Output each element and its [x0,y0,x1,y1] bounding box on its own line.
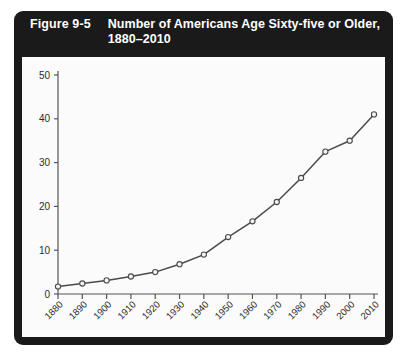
x-tick-label: 1930 [164,299,187,322]
y-tick-label: 40 [39,113,51,124]
data-point [347,138,352,143]
x-tick-label: 1960 [237,299,260,322]
y-tick-label: 10 [39,245,51,256]
figure-number-label: Figure 9-5 [30,17,91,31]
data-point [177,262,182,267]
figure-frame: Figure 9-5 Number of Americans Age Sixty… [14,11,393,345]
data-markers [55,112,376,289]
data-series [58,114,374,286]
page-title: Number of Americans Age Sixty-five or Ol… [108,17,383,46]
x-tick-label: 1920 [139,299,162,322]
figure-title-bar: Figure 9-5 Number of Americans Age Sixty… [14,11,393,57]
data-point [250,219,255,224]
x-tick-label: 1880 [42,299,65,322]
data-point [274,199,279,204]
data-point [226,234,231,239]
data-point [298,175,303,180]
data-point [371,112,376,117]
x-axis: 1880189019001910192019301940195019601970… [42,294,381,321]
plot-area: 01020304050 1880189019001910192019301940… [22,57,385,337]
x-tick-label: 1890 [66,299,89,322]
data-point [55,284,60,289]
data-point [128,274,133,279]
y-tick-label: 50 [39,70,51,81]
y-axis: 01020304050 [39,70,58,300]
x-tick-label: 1900 [91,299,114,322]
title-row: Figure 9-5 Number of Americans Age Sixty… [30,17,383,46]
data-point [201,252,206,257]
x-tick-label: 1950 [212,299,235,322]
x-tick-label: 2000 [334,299,357,322]
data-point [153,270,158,275]
y-tick-label: 0 [44,289,50,300]
x-tick-label: 1980 [285,299,308,322]
x-tick-label: 1990 [310,299,333,322]
x-tick-label: 1970 [261,299,284,322]
data-point [80,281,85,286]
x-tick-label: 2010 [358,299,381,322]
x-tick-label: 1940 [188,299,211,322]
figure-container: Figure 9-5 Number of Americans Age Sixty… [0,0,407,356]
y-tick-label: 30 [39,157,51,168]
y-tick-label: 20 [39,201,51,212]
x-tick-label: 1910 [115,299,138,322]
data-point [104,278,109,283]
data-point [323,149,328,154]
line-chart: 01020304050 1880189019001910192019301940… [22,57,385,337]
